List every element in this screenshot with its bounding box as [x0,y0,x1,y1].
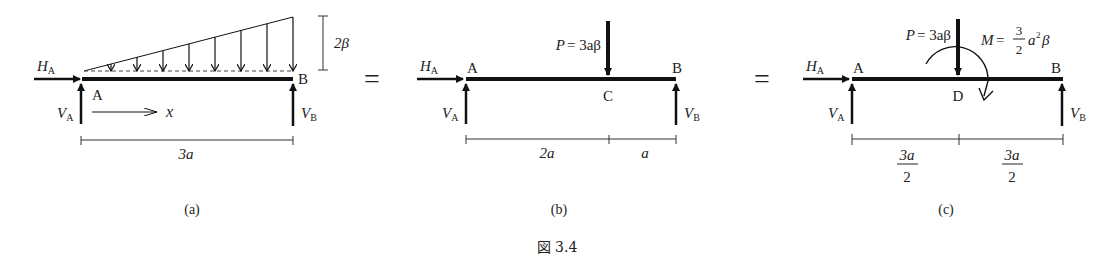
svg-text:3a: 3a [899,147,915,163]
left-reaction-label-b: VA [442,105,459,123]
x-axis-label: x [165,103,173,120]
panel-b: P= 3aβ HA VA VB A B C 2a a (b) [417,21,700,218]
point-load-label-b: P= 3aβ [555,37,601,53]
load-magnitude-label: 2β [334,35,350,51]
svg-text:2: 2 [1036,30,1041,40]
left-reaction-label-a: VA [57,105,74,123]
span-label-c-left: 3a 2 [897,147,918,185]
point-a-label: A [92,87,103,103]
span-dimension-b [466,135,676,144]
panel-label-b: (b) [551,202,568,218]
right-reaction-label-c: VB [1070,105,1086,123]
panel-c: P= 3aβ M = 3 2 a 2 β HA VA VB A B D [803,19,1086,218]
point-a-label-b: A [467,60,478,76]
equals-sign-2: = [754,63,770,94]
horizontal-reaction-label-c: HA [805,58,825,76]
equals-sign-1: = [364,63,380,94]
horizontal-reaction-label-a: HA [36,58,56,76]
panel-label-c: (c) [938,202,954,218]
panel-label-a: (a) [184,202,200,218]
svg-text:2: 2 [1016,42,1023,57]
svg-text:a: a [1028,32,1036,48]
moment-label: M = 3 2 a 2 β [980,23,1050,57]
load-magnitude-dimension [318,16,328,70]
svg-text:3a: 3a [1004,147,1020,163]
point-a-label-c: A [853,60,864,76]
point-load-label-c: P= 3aβ [905,27,951,43]
right-reaction-label-b: VB [684,105,700,123]
left-reaction-label-c: VA [828,105,845,123]
span-label-a: 3a [178,146,194,162]
right-reaction-label-a: VB [301,105,317,123]
point-b-label-c: B [1051,60,1061,76]
figure-caption: 図 3.4 [537,239,578,255]
point-c-label: C [603,88,613,104]
span-dimension-a [81,136,293,145]
span-label-b-right: a [641,145,649,161]
svg-text:2: 2 [903,169,911,185]
span-dimension-c [852,134,1063,145]
distributed-load-arrows [111,17,293,71]
panel-a: 2β HA VA VB A B x 3a (a) [34,16,350,218]
point-d-label: D [953,88,964,104]
svg-text:=: = [996,32,1004,48]
point-b-label-b: B [672,60,682,76]
figure-3-4: 2β HA VA VB A B x 3a (a) = P= 3aβ HA [0,0,1114,268]
svg-text:M: M [980,32,995,48]
svg-text:3: 3 [1016,23,1023,38]
point-b-label: B [298,71,308,87]
svg-text:β: β [1041,32,1050,48]
span-label-c-right: 3a 2 [1002,147,1023,185]
horizontal-reaction-label-b: HA [419,58,439,76]
span-label-b-left: 2a [540,145,555,161]
svg-text:2: 2 [1008,169,1016,185]
